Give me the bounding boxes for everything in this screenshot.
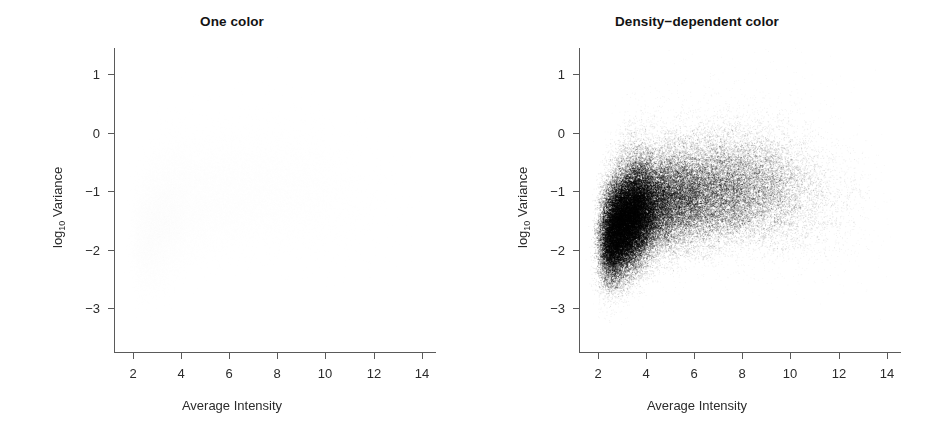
x-axis-tick: [277, 353, 278, 359]
y-axis-tick-label: −3: [62, 301, 100, 316]
x-axis-tick-label: 4: [177, 366, 184, 381]
y-axis-tick: [573, 133, 579, 134]
y-axis-line: [579, 48, 580, 352]
y-axis-tick-label: 1: [527, 67, 565, 82]
y-axis-tick-label: 0: [62, 126, 100, 141]
y-axis-tick: [108, 74, 114, 75]
y-axis-title-rest: Variance: [50, 167, 65, 221]
y-axis-tick: [108, 308, 114, 309]
y-axis-title-rest: Variance: [515, 167, 530, 221]
x-axis-tick: [422, 353, 423, 359]
y-axis-tick: [573, 250, 579, 251]
y-axis-tick-label: −2: [527, 243, 565, 258]
x-axis-tick: [790, 353, 791, 359]
x-axis-tick-label: 4: [642, 366, 649, 381]
x-axis-tick: [181, 353, 182, 359]
y-axis-tick-label: −1: [527, 184, 565, 199]
y-axis-tick-label: −2: [62, 243, 100, 258]
y-axis-tick: [573, 191, 579, 192]
y-axis-title-subscript: 10: [57, 221, 67, 231]
x-axis-tick-label: 8: [738, 366, 745, 381]
x-axis-tick-label: 6: [690, 366, 697, 381]
y-axis-title-base: log: [50, 231, 65, 248]
x-axis-line: [579, 352, 901, 353]
x-axis-tick: [694, 353, 695, 359]
x-axis-line: [114, 352, 436, 353]
x-axis-tick-label: 12: [367, 366, 381, 381]
x-axis-title: Average Intensity: [465, 398, 929, 413]
y-axis-tick: [108, 191, 114, 192]
x-axis-title: Average Intensity: [0, 398, 464, 413]
x-axis-tick: [839, 353, 840, 359]
y-axis-tick: [108, 133, 114, 134]
x-axis-tick: [325, 353, 326, 359]
figure-root: One color 10−1−2−32468101214 Average Int…: [0, 0, 929, 438]
y-axis-tick-label: −1: [62, 184, 100, 199]
panel-one-color: One color 10−1−2−32468101214 Average Int…: [0, 0, 464, 438]
x-axis-tick-label: 2: [129, 366, 136, 381]
y-axis-tick-label: 0: [527, 126, 565, 141]
y-axis-line: [114, 48, 115, 352]
y-axis-tick-label: 1: [62, 67, 100, 82]
x-axis-tick: [887, 353, 888, 359]
y-axis-tick: [573, 74, 579, 75]
y-axis-title: log10 Variance: [50, 167, 65, 248]
x-axis-tick: [229, 353, 230, 359]
x-axis-tick-label: 8: [273, 366, 280, 381]
y-axis-title-subscript: 10: [522, 221, 532, 231]
x-axis-tick: [646, 353, 647, 359]
y-axis-title: log10 Variance: [515, 167, 530, 248]
x-axis-tick-label: 2: [594, 366, 601, 381]
y-axis-tick: [573, 308, 579, 309]
x-axis-tick-label: 14: [415, 366, 429, 381]
x-axis-tick-label: 12: [832, 366, 846, 381]
y-axis-tick: [108, 250, 114, 251]
y-axis-tick-label: −3: [527, 301, 565, 316]
x-axis-tick: [133, 353, 134, 359]
x-axis-tick: [742, 353, 743, 359]
x-axis-tick-label: 6: [225, 366, 232, 381]
x-axis-tick: [598, 353, 599, 359]
x-axis-tick-label: 10: [783, 366, 797, 381]
x-axis-tick: [374, 353, 375, 359]
panel-density-dependent-color: Density−dependent color 10−1−2−324681012…: [465, 0, 929, 438]
x-axis-tick-label: 10: [318, 366, 332, 381]
x-axis-tick-label: 14: [880, 366, 894, 381]
y-axis-title-base: log: [515, 231, 530, 248]
